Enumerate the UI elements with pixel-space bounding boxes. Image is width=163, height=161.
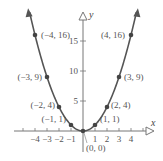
x-axis-arrow-icon [146,127,154,135]
x-axis-label: x [150,117,156,128]
data-point [81,129,86,134]
data-point [45,75,50,80]
point-label: (3, 9) [124,72,144,82]
y-tick-label: 10 [69,66,79,76]
point-label: (1, 1) [100,114,120,124]
data-point [117,75,122,80]
origin-label-leader [84,133,87,143]
data-point [69,123,74,128]
data-point [93,123,98,128]
parabola-chart: xy−4−3−2−1123451015 (−4, 16)(−3, 9)(−2, … [0,0,163,161]
point-label: (4, 16) [101,30,125,40]
data-point [129,33,134,38]
point-label: (−3, 9) [17,72,42,82]
x-tick-label: −3 [42,134,52,144]
data-point [33,33,38,38]
x-tick-label: 4 [129,134,134,144]
point-label: (2, 4) [111,100,131,110]
point-label: (−4, 16) [41,30,70,40]
curve-arrow-right-icon [133,8,140,17]
point-label: (−2, 4) [30,100,55,110]
y-tick-label: 5 [74,96,79,106]
curve-arrow-left-icon [26,8,33,17]
x-tick-label: −1 [66,134,76,144]
point-label: (0, 0) [86,143,106,153]
x-tick-label: −2 [54,134,64,144]
x-tick-label: −4 [30,134,40,144]
y-axis-arrow-icon [79,12,87,20]
y-axis-label: y [88,9,94,20]
data-point [105,105,110,110]
y-tick-label: 15 [69,36,79,46]
x-tick-label: 3 [117,134,122,144]
point-label: (−1, 1) [41,114,66,124]
data-point [57,105,62,110]
